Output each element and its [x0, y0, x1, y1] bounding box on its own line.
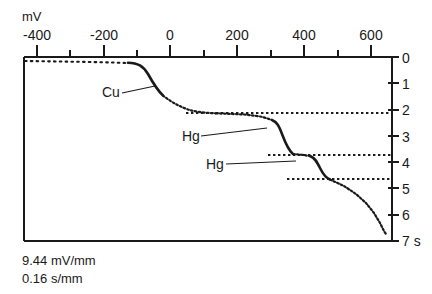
trace-final-descent — [330, 180, 386, 235]
trace-cu-tail — [163, 96, 216, 114]
annotation-label-cu: Cu — [102, 84, 120, 100]
annotation-leaders — [122, 86, 296, 164]
scale-footnotes: 9.44 mV/mm 0.16 s/mm — [22, 252, 96, 287]
leader-line-hg-1 — [201, 128, 267, 136]
leader-line-hg-2 — [226, 161, 296, 164]
annotation-label-hg-1: Hg — [182, 128, 200, 144]
trace-baseline — [25, 61, 126, 63]
annotation-label-hg-2: Hg — [206, 156, 224, 172]
trace-step-hg-1 — [272, 120, 293, 154]
plot-frame — [24, 57, 392, 241]
titration-chart: Cu Hg Hg — [0, 0, 432, 294]
titration-trace — [25, 61, 386, 234]
annotation-labels: Cu Hg Hg — [102, 84, 224, 172]
x-axis-ticks — [37, 45, 371, 57]
footnote-mv-per-mm: 9.44 mV/mm — [22, 252, 96, 270]
trace-step-hg-2 — [311, 157, 330, 180]
trace-plateau-cu — [216, 113, 272, 120]
leader-line-cu — [122, 86, 155, 93]
footnote-s-per-mm: 0.16 s/mm — [22, 270, 96, 288]
